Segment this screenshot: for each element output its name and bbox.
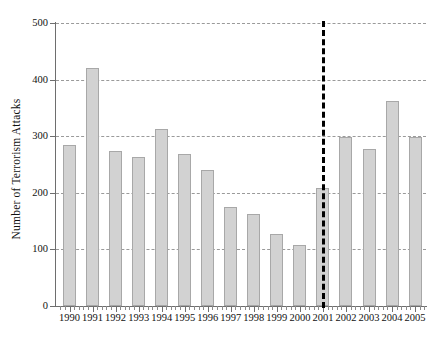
x-tick-minor [397,306,398,310]
x-tick-minor [226,306,227,310]
bar-1999 [270,234,283,306]
bar-1997 [224,207,237,306]
x-tick-minor [166,306,167,310]
x-tick-minor [401,306,402,310]
gridline-300 [56,136,426,137]
x-tick-minor [332,306,333,310]
terrorism-attacks-bar-chart: Number of Terrorism Attacks 010020030040… [0,0,443,337]
x-tick-minor [387,306,388,310]
x-tick-minor [281,306,282,310]
y-tick-label-400: 400 [2,75,48,86]
x-tick-minor [249,306,250,310]
bar-2005 [409,137,422,306]
x-tick-minor [424,306,425,310]
x-tick-minor [360,306,361,310]
x-tick-minor [83,306,84,310]
x-tick-minor [355,306,356,310]
x-tick-minor [420,306,421,310]
september-11-marker [322,21,325,308]
x-tick-minor [268,306,269,310]
x-tick-minor [309,306,310,310]
x-tick-minor [295,306,296,310]
y-tick-300 [50,136,56,137]
x-tick-minor [152,306,153,310]
x-tick-minor [106,306,107,310]
y-tick-100 [50,249,56,250]
y-tick-500 [50,23,56,24]
x-tick-minor [65,306,66,310]
x-tick-minor [134,306,135,310]
x-tick-minor [337,306,338,310]
x-tick-minor [328,306,329,310]
x-tick-minor [171,306,172,310]
plot-area [56,23,426,306]
x-tick-minor [258,306,259,310]
x-tick-minor [374,306,375,310]
x-tick-minor [180,306,181,310]
x-tick-minor [235,306,236,310]
x-tick-label-2005: 2005 [398,313,432,324]
bar-1992 [109,151,122,306]
bar-1993 [132,157,145,306]
y-tick-label-100: 100 [2,244,48,255]
bar-1994 [155,129,168,306]
x-tick-minor [314,306,315,310]
x-tick-minor [74,306,75,310]
x-tick-minor [97,306,98,310]
x-tick-minor [378,306,379,310]
x-tick-minor [240,306,241,310]
gridline-400 [56,80,426,81]
bar-2004 [386,101,399,306]
y-tick-label-0: 0 [2,301,48,312]
x-tick-minor [79,306,80,310]
x-tick-minor [383,306,384,310]
x-tick-minor [222,306,223,310]
x-tick-minor [364,306,365,310]
bar-1990 [63,145,76,306]
x-tick-minor [272,306,273,310]
x-tick-minor [88,306,89,310]
x-tick-minor [212,306,213,310]
x-tick-minor [189,306,190,310]
x-tick-minor [111,306,112,310]
x-tick-minor [102,306,103,310]
y-axis-tick-labels: 0100200300400500 [0,0,48,337]
y-tick-label-200: 200 [2,188,48,199]
x-tick-minor [351,306,352,310]
bar-2000 [293,245,306,306]
bar-1998 [247,214,260,306]
x-tick-minor [120,306,121,310]
x-tick-minor [129,306,130,310]
y-tick-label-300: 300 [2,131,48,142]
x-tick-minor [263,306,264,310]
x-tick-minor [143,306,144,310]
y-tick-label-500: 500 [2,18,48,29]
bar-2003 [363,149,376,306]
bar-1995 [178,154,191,306]
y-tick-400 [50,80,56,81]
x-tick-minor [203,306,204,310]
x-tick-minor [148,306,149,310]
x-tick-minor [175,306,176,310]
y-tick-200 [50,193,56,194]
bar-1996 [201,170,214,306]
x-tick-minor [245,306,246,310]
x-tick-minor [291,306,292,310]
x-tick-minor [286,306,287,310]
x-tick-minor [194,306,195,310]
x-tick-minor [60,306,61,310]
x-tick-minor [410,306,411,310]
gridline-500 [56,23,426,24]
bar-2002 [339,137,352,306]
bar-1991 [86,68,99,306]
x-tick-minor [217,306,218,310]
x-tick-minor [199,306,200,310]
x-tick-minor [318,306,319,310]
x-tick-minor [157,306,158,310]
x-tick-minor [406,306,407,310]
x-tick-minor [125,306,126,310]
x-tick-minor [341,306,342,310]
x-tick-minor [305,306,306,310]
